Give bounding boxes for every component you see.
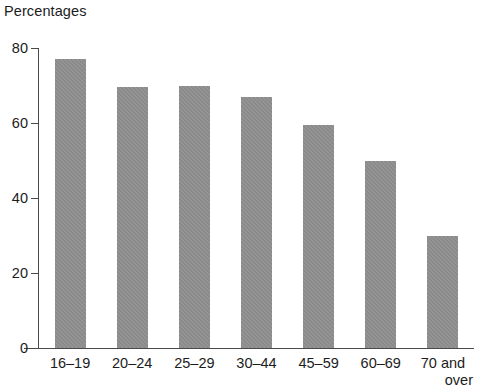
x-tick-label-line2: over <box>412 372 474 389</box>
bar <box>241 97 272 348</box>
bar <box>427 236 458 349</box>
x-tick-label: 45–59 <box>288 355 350 372</box>
bar <box>55 59 86 348</box>
x-tick-label: 30–44 <box>225 355 287 372</box>
bars-group <box>0 0 478 392</box>
bar <box>365 161 396 349</box>
x-tick-label: 70 andover <box>412 355 474 389</box>
bar <box>117 87 148 348</box>
x-tick-label: 20–24 <box>101 355 163 372</box>
bar-chart: Percentages 020406080 16–1920–2425–2930–… <box>0 0 478 392</box>
bar <box>303 125 334 348</box>
x-tick-label: 16–19 <box>39 355 101 372</box>
x-tick-label: 25–29 <box>163 355 225 372</box>
x-tick-label: 60–69 <box>350 355 412 372</box>
bar <box>179 86 210 349</box>
